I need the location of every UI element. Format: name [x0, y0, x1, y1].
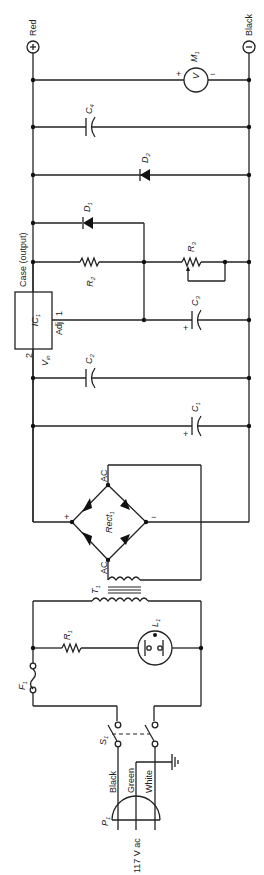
capacitor-c3: + C3: [142, 296, 249, 334]
svg-text:White: White: [144, 770, 154, 793]
terminal-label-red: Red: [28, 19, 38, 36]
svg-text:−: −: [210, 69, 215, 79]
svg-text:+: +: [183, 429, 188, 439]
svg-text:+: +: [176, 69, 181, 79]
junction-dots: [31, 78, 251, 428]
svg-text:T1: T1: [90, 585, 101, 594]
svg-text:F1: F1: [17, 681, 28, 690]
positive-terminal: Red: [27, 19, 39, 53]
svg-text:M1: M1: [189, 51, 200, 62]
svg-text:Vin: Vin: [40, 355, 51, 366]
svg-text:R2: R2: [85, 276, 96, 287]
svg-text:C2: C2: [84, 354, 95, 365]
svg-text:Case (output): Case (output): [18, 232, 28, 287]
diode-d2: D2: [33, 153, 249, 182]
svg-text:1: 1: [54, 311, 64, 316]
bridge-rectifier: + − AC AC Rect1: [33, 465, 249, 580]
svg-text:Rect1: Rect1: [104, 511, 115, 533]
svg-text:117 V ac: 117 V ac: [132, 838, 142, 873]
resistor-r1: R1: [33, 630, 139, 652]
capacitor-c1: + C1: [33, 402, 249, 439]
svg-text:S1: S1: [98, 736, 109, 745]
svg-text:+: +: [64, 512, 69, 522]
capacitor-c2: C2: [33, 354, 249, 389]
svg-text:V: V: [191, 72, 201, 79]
svg-text:R3: R3: [186, 242, 197, 253]
svg-text:L1: L1: [150, 619, 161, 627]
svg-text:Black: Black: [108, 770, 118, 793]
svg-text:R1: R1: [62, 630, 73, 640]
svg-text:D2: D2: [140, 153, 151, 164]
svg-text:P1: P1: [100, 817, 111, 826]
svg-text:C1: C1: [190, 402, 201, 412]
svg-text:−: −: [151, 512, 156, 522]
negative-terminal: Black: [243, 13, 255, 53]
svg-text:+: +: [183, 323, 188, 333]
capacitor-c4: C4: [33, 104, 249, 138]
svg-text:D1: D1: [82, 202, 93, 212]
svg-text:C3: C3: [190, 296, 201, 307]
svg-text:C4: C4: [84, 104, 95, 115]
neon-lamp-l1: L1: [138, 619, 201, 665]
potentiometer-r3: R3: [144, 242, 249, 282]
plug-p1: Black Green White P1 117 V ac: [100, 768, 160, 873]
svg-text:IC1: IC1: [30, 314, 41, 326]
svg-text:Green: Green: [126, 768, 136, 793]
circuit-schematic: Red Black V + − M1 C4 D2 D1: [0, 0, 264, 875]
terminal-label-black: Black: [244, 13, 254, 36]
svg-text:Adj: Adj: [54, 322, 64, 335]
resistor-r2: R2: [33, 258, 144, 287]
switch-s1: S1: [33, 706, 201, 830]
ground-symbol: [136, 754, 178, 830]
fuse-f1: F1: [17, 663, 36, 706]
voltmeter-m1: V + − M1: [33, 51, 249, 92]
